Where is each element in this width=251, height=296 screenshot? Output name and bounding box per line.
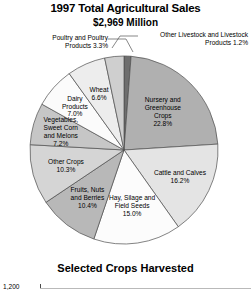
pie-chart-svg: Nursery andGreenhouseCrops22.8%Cattle an…	[0, 30, 251, 250]
pie-chart: Nursery andGreenhouseCrops22.8%Cattle an…	[0, 30, 251, 250]
callout-poultry-line1: Poultry and Poultry	[4, 34, 108, 42]
callout-leader-lines	[108, 36, 138, 52]
callout-other-livestock-line1: Other Livestock and Livestock	[140, 31, 248, 39]
callout-poultry-products: Poultry and Poultry Products 3.3%	[4, 34, 108, 49]
bottom-chart-axis-line	[40, 288, 251, 289]
page-title: 1997 Total Agricultural Sales	[0, 2, 251, 14]
bottom-chart-title: Selected Crops Harvested	[0, 262, 251, 274]
callout-other-livestock: Other Livestock and Livestock Products 1…	[140, 31, 248, 46]
leader-line-poultry	[108, 39, 133, 52]
bottom-chart-axis-tick: 1,200	[3, 283, 20, 290]
callout-poultry-line2: Products 3.3%	[4, 42, 108, 50]
chart-subtitle: $2,969 Million	[0, 17, 251, 28]
leader-line-other-livestock	[112, 36, 138, 48]
pie-slice-label: Wheat6.6%	[89, 86, 108, 101]
callout-other-livestock-line2: Products 1.2%	[140, 39, 248, 47]
